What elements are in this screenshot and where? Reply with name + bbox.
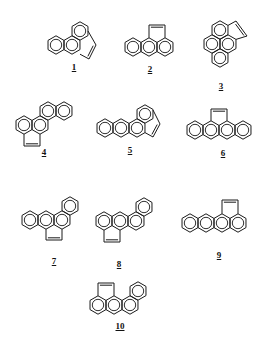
structure-7 <box>22 197 78 240</box>
aromatic-circle <box>64 200 75 211</box>
structure-label: 4 <box>42 148 47 157</box>
aromatic-circle <box>184 217 195 228</box>
aromatic-circle <box>221 124 232 135</box>
aromatic-circle <box>98 215 109 226</box>
aromatic-circle <box>216 217 227 228</box>
aromatic-circle <box>132 285 143 296</box>
structure-label: 7 <box>52 257 57 266</box>
aromatic-circle <box>138 201 149 212</box>
aromatic-circle <box>205 124 216 135</box>
aromatic-circle <box>74 25 85 36</box>
aromatic-circle <box>58 105 69 116</box>
aromatic-circle <box>232 217 243 228</box>
structure-label: 9 <box>217 251 222 260</box>
aromatic-circle <box>237 124 248 135</box>
structure-label: 3 <box>219 82 224 91</box>
structure-1 <box>48 22 96 59</box>
aromatic-circle <box>139 108 150 119</box>
structure-label: 6 <box>221 149 226 158</box>
structure-label: 2 <box>148 65 153 74</box>
aromatic-circle <box>124 299 135 310</box>
double-bond <box>152 125 157 135</box>
structure-3 <box>204 21 247 67</box>
structure-5 <box>97 105 160 137</box>
structure-9 <box>182 200 246 232</box>
structure-label: 10 <box>116 322 125 331</box>
aromatic-circle <box>200 217 211 228</box>
aromatic-circle <box>214 24 225 35</box>
structure-4 <box>16 102 72 146</box>
aromatic-circle <box>130 215 141 226</box>
aromatic-circle <box>206 38 217 49</box>
aromatic-circle <box>42 105 53 116</box>
structure-2 <box>125 25 173 56</box>
structure-10 <box>90 282 146 314</box>
aromatic-circle <box>159 41 170 52</box>
cyclopenta-ring <box>46 229 62 240</box>
aromatic-circle <box>24 214 35 225</box>
aromatic-circle <box>127 41 138 52</box>
double-bond <box>88 46 93 57</box>
aromatic-circle <box>143 41 154 52</box>
aromatic-circle <box>99 122 110 133</box>
aromatic-circle <box>189 124 200 135</box>
structure-6 <box>187 109 251 139</box>
aromatic-circle <box>131 122 142 133</box>
structure-8 <box>96 198 152 242</box>
structure-label: 5 <box>128 146 133 155</box>
aromatic-circle <box>40 214 51 225</box>
aromatic-circle <box>56 214 67 225</box>
structure-label: 1 <box>72 63 77 72</box>
aromatic-circle <box>115 122 126 133</box>
structures-figure <box>0 0 271 346</box>
aromatic-circle <box>50 39 61 50</box>
aromatic-circle <box>92 299 103 310</box>
aromatic-circle <box>66 39 77 50</box>
structure-label: 8 <box>117 260 122 269</box>
aromatic-circle <box>214 52 225 63</box>
aromatic-circle <box>18 119 29 130</box>
aromatic-circle <box>108 299 119 310</box>
aromatic-circle <box>114 215 125 226</box>
aromatic-circle <box>222 38 233 49</box>
aromatic-circle <box>34 119 45 130</box>
